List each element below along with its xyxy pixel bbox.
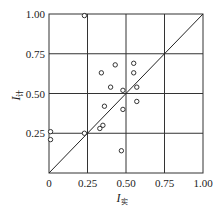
x-tick-label: 0	[46, 177, 52, 189]
x-tick-label: 1.00	[193, 177, 213, 189]
x-tick-label: 0.75	[155, 177, 175, 189]
data-point	[48, 129, 52, 133]
y-tick-label: 0.25	[26, 127, 46, 139]
data-point	[135, 85, 139, 89]
data-point	[113, 63, 117, 67]
data-point	[48, 137, 52, 141]
y-tick-label: 0.75	[26, 48, 46, 60]
data-point	[102, 104, 106, 108]
data-point	[99, 71, 103, 75]
data-point	[121, 88, 125, 92]
data-point	[119, 149, 123, 153]
x-axis-label: I实	[116, 191, 128, 206]
x-tick-label: 0.50	[116, 177, 136, 189]
x-tick-label: 0.25	[78, 177, 98, 189]
data-point	[98, 126, 102, 130]
y-tick-label: 1.00	[26, 8, 46, 20]
data-point	[135, 99, 139, 103]
x-axis-ticks: 00.250.500.751.00	[46, 177, 213, 189]
data-point	[108, 85, 112, 89]
data-points	[48, 13, 139, 153]
data-point	[132, 71, 136, 75]
y-axis-label: I计	[9, 90, 24, 102]
data-point	[121, 107, 125, 111]
data-point	[132, 61, 136, 65]
scatter-chart: 00.250.500.751.00 0.250.500.751.00 I实 I计	[0, 0, 223, 211]
data-point	[82, 13, 86, 17]
y-axis-ticks: 0.250.500.751.00	[26, 8, 46, 139]
data-point	[82, 131, 86, 135]
y-tick-label: 0.50	[26, 88, 46, 100]
